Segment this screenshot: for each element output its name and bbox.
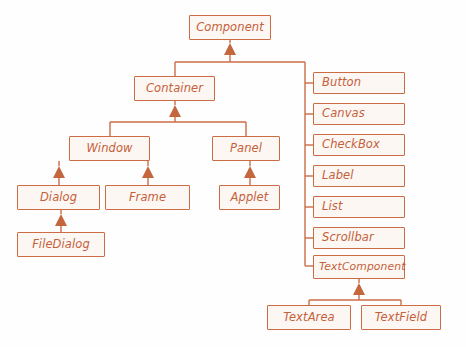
class-node-label: Container: [146, 83, 203, 95]
class-node-label: FileDialog: [32, 239, 90, 251]
class-node-dialog[interactable]: Dialog: [17, 185, 100, 210]
class-node-list[interactable]: List: [313, 196, 405, 218]
class-node-component[interactable]: Component: [189, 15, 271, 40]
class-node-button[interactable]: Button: [313, 72, 405, 94]
class-node-panel[interactable]: Panel: [212, 136, 280, 161]
class-node-textcomponent[interactable]: TextComponent: [313, 255, 405, 279]
arrowhead-window-frame: [142, 166, 154, 178]
class-diagram-canvas: Component Container Window Panel Dialog …: [0, 0, 466, 347]
class-node-label: Label: [322, 170, 354, 182]
class-node-label: TextComponent: [319, 262, 406, 273]
class-node-label: TextField: [375, 312, 427, 324]
class-node-filedialog[interactable]: FileDialog: [17, 232, 105, 257]
class-node-scrollbar[interactable]: Scrollbar: [313, 227, 405, 249]
class-node-label: List: [322, 201, 343, 213]
class-node-window[interactable]: Window: [69, 136, 150, 161]
arrowhead-window-dialog: [53, 166, 65, 178]
class-node-label: Dialog: [40, 192, 77, 204]
class-node-container[interactable]: Container: [134, 76, 215, 101]
class-node-textfield[interactable]: TextField: [361, 305, 441, 330]
class-node-label: Panel: [230, 143, 262, 155]
class-node-label: Window: [86, 143, 132, 155]
arrowhead-component: [224, 43, 236, 55]
arrowhead-dialog-filedialog: [55, 214, 67, 226]
class-node-label-class[interactable]: Label: [313, 165, 405, 187]
class-node-label: Scrollbar: [322, 232, 374, 244]
class-node-label: CheckBox: [322, 139, 380, 151]
class-node-checkbox[interactable]: CheckBox: [313, 134, 405, 156]
class-node-label: Canvas: [322, 108, 365, 120]
class-node-label: Button: [322, 77, 361, 89]
class-node-frame[interactable]: Frame: [105, 185, 190, 210]
arrowhead-textcomponent: [353, 283, 365, 295]
class-node-label: Frame: [129, 192, 166, 204]
class-node-label: Component: [196, 22, 264, 34]
class-node-textarea[interactable]: TextArea: [267, 305, 351, 330]
class-node-label: Applet: [231, 192, 269, 204]
class-node-applet[interactable]: Applet: [219, 185, 280, 210]
class-node-canvas[interactable]: Canvas: [313, 103, 405, 125]
class-node-label: TextArea: [283, 312, 335, 324]
arrowhead-container: [169, 105, 181, 117]
arrowhead-panel-applet: [244, 166, 256, 178]
